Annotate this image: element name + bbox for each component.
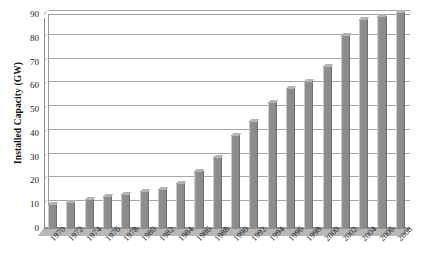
bar-slot	[355, 14, 373, 228]
bar-1974	[85, 199, 94, 228]
bar-2004	[359, 19, 368, 228]
y-tick-label-90: 90	[30, 9, 39, 19]
bar-slot	[373, 14, 391, 228]
bar-1986	[194, 171, 203, 228]
bar-slot	[392, 14, 410, 228]
gridline-90	[49, 10, 410, 11]
bar-slot	[154, 14, 172, 228]
bar-1996	[286, 88, 295, 228]
bar-slot	[62, 14, 80, 228]
bar-1978	[121, 194, 130, 228]
bar-slot	[227, 14, 245, 228]
bar-slot	[190, 14, 208, 228]
bar-slot	[172, 14, 190, 228]
bar-1976	[103, 196, 112, 228]
bar-1998	[304, 81, 313, 228]
bar-slot	[209, 14, 227, 228]
y-tick-label-50: 50	[30, 104, 39, 114]
y-tick-label-40: 40	[30, 128, 39, 138]
bar-1984	[176, 183, 185, 228]
bar-chart: Installed Capacity (GW) 0102030405060708…	[0, 0, 428, 267]
bar-1972	[66, 202, 75, 228]
bar-2006	[377, 16, 386, 228]
y-tick-label-30: 30	[30, 152, 39, 162]
bar-slot	[81, 14, 99, 228]
bar-slot	[282, 14, 300, 228]
bar-2000	[323, 66, 332, 228]
y-axis-title: Installed Capacity (GW)	[13, 23, 23, 203]
bar-2008	[396, 12, 405, 228]
y-tick-label-10: 10	[30, 199, 39, 209]
plot-area: 0102030405060708090	[44, 14, 410, 232]
bar-1982	[158, 189, 167, 228]
bar-slot	[300, 14, 318, 228]
x-axis-tick-labels: 1970197219741976197819801982198419861988…	[44, 236, 410, 267]
bar-slot	[337, 14, 355, 228]
bar-1990	[231, 135, 240, 228]
bar-slot	[99, 14, 117, 228]
bar-slot	[136, 14, 154, 228]
y-tick-label-20: 20	[30, 175, 39, 185]
y-tick-label-0: 0	[35, 223, 40, 233]
bar-1994	[268, 102, 277, 228]
bar-slot	[319, 14, 337, 228]
bar-1988	[213, 157, 222, 228]
bar-slot	[44, 14, 62, 228]
bar-slot	[117, 14, 135, 228]
bar-1980	[140, 191, 149, 228]
y-tick-label-60: 60	[30, 80, 39, 90]
bar-slot	[264, 14, 282, 228]
y-tick-label-80: 80	[30, 33, 39, 43]
bar-2002	[341, 35, 350, 228]
bar-slot	[245, 14, 263, 228]
bar-1970	[48, 204, 57, 228]
bar-1992	[249, 121, 258, 228]
bar-series	[44, 14, 410, 228]
y-tick-label-70: 70	[30, 57, 39, 67]
